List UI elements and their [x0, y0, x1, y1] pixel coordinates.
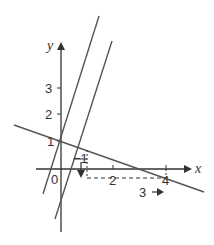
coordinate-diagram: y x 0 2 4 1 2 3 −1 3 [0, 0, 214, 245]
x-tick-label-4: 4 [162, 173, 169, 188]
y-axis-label: y [45, 38, 54, 53]
y-tick-label-2: 2 [45, 107, 52, 122]
x-axis-label: x [194, 161, 202, 176]
y-tick-label-3: 3 [45, 81, 52, 96]
y-tick-label-1: 1 [47, 134, 54, 149]
right-arrow-icon [157, 188, 164, 196]
slope-drop-label: −1 [73, 151, 88, 166]
down-arrow-icon [77, 170, 85, 178]
run-label: 3 [139, 185, 146, 200]
x-tick-label-2: 2 [109, 173, 116, 188]
origin-label: 0 [51, 172, 58, 187]
